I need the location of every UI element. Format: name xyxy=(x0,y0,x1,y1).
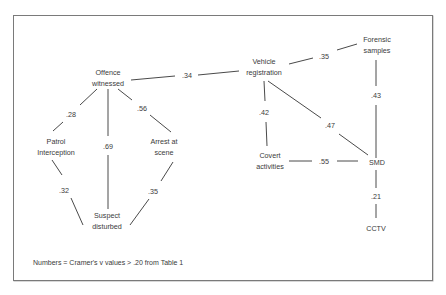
node-label-line: samples xyxy=(363,45,391,56)
edge-line-segment xyxy=(53,122,63,131)
node-arrest-at-scene: Arrest atscene xyxy=(150,136,177,158)
node-label-line: Covert xyxy=(256,150,284,161)
node-label-line: Forensic xyxy=(363,34,391,45)
edge-value-label: .56 xyxy=(137,104,147,113)
edge-line-segment xyxy=(337,44,357,50)
edge-value-label: .69 xyxy=(103,142,113,151)
node-suspect-disturbed: Suspectdisturbed xyxy=(92,210,122,232)
edge-value-label: .21 xyxy=(371,192,381,201)
edge-vehicle_registration-to-smd xyxy=(268,81,368,155)
node-cctv: CCTV xyxy=(366,223,386,234)
node-label-line: scene xyxy=(150,147,177,158)
node-smd: SMD xyxy=(369,157,385,168)
edge-line-segment xyxy=(161,162,173,181)
node-label-line: SMD xyxy=(369,157,385,168)
node-vehicle-registration: Vehicleregistration xyxy=(246,56,282,78)
node-label-line: Patrol xyxy=(37,136,75,147)
edge-line-segment xyxy=(339,134,368,155)
edge-line-segment xyxy=(289,58,313,64)
edge-line-segment xyxy=(80,89,97,105)
edge-value-label: .43 xyxy=(371,91,381,100)
edge-value-label: .42 xyxy=(259,108,269,117)
edge-line-segment xyxy=(150,115,171,132)
edge-line-segment xyxy=(118,89,132,100)
edge-line-segment xyxy=(264,81,265,101)
node-label-line: witnessed xyxy=(92,78,124,89)
edge-value-label: .32 xyxy=(59,186,69,195)
edge-value-label: .35 xyxy=(319,52,329,61)
edge-value-label: .55 xyxy=(319,157,329,166)
edge-line-segment xyxy=(266,122,267,146)
node-label-line: Arrest at xyxy=(150,136,177,147)
edge-line-segment xyxy=(131,76,175,80)
caption-note: Numbers = Cramer's v values > .20 from T… xyxy=(33,259,183,266)
node-label-line: registration xyxy=(246,67,282,78)
edge-line-segment xyxy=(130,199,149,225)
edge-line-segment xyxy=(71,198,83,225)
node-label-line: Suspect xyxy=(92,210,122,221)
node-label-line: activities xyxy=(256,161,284,172)
node-forensic-samples: Forensicsamples xyxy=(363,34,391,56)
node-label-line: Vehicle xyxy=(246,56,282,67)
node-offence-witnessed: Offencewitnessed xyxy=(92,67,124,89)
node-label-line: disturbed xyxy=(92,221,122,232)
edge-line-segment xyxy=(268,81,321,118)
edge-value-label: .35 xyxy=(148,187,158,196)
diagram-canvas: .34.28.69.56.32.35.35.42.47.43.55.21Offe… xyxy=(0,0,446,295)
edge-value-label: .34 xyxy=(182,71,192,80)
node-covert-activities: Covertactivities xyxy=(256,150,284,172)
edge-line-segment xyxy=(52,160,62,175)
node-patrol-interception: PatrolInterception xyxy=(37,136,75,158)
node-label-line: CCTV xyxy=(366,223,386,234)
edge-line-segment xyxy=(198,71,239,75)
node-label-line: Offence xyxy=(92,67,124,78)
edge-value-label: .28 xyxy=(66,110,76,119)
node-label-line: Interception xyxy=(37,147,75,158)
edge-value-label: .47 xyxy=(325,121,335,130)
